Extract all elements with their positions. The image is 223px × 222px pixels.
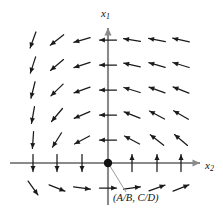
field-arrow — [150, 135, 163, 145]
field-arrow-head — [80, 166, 85, 171]
field-arrow-head — [74, 89, 80, 94]
field-arrow — [149, 87, 165, 93]
field-arrow — [173, 185, 189, 192]
field-arrow-head — [30, 67, 35, 73]
field-arrow — [174, 135, 187, 146]
field-arrow-head — [55, 166, 60, 171]
axes-group — [10, 28, 200, 205]
field-arrow-head — [30, 42, 35, 48]
field-arrow — [74, 62, 90, 68]
field-arrow-head — [100, 138, 105, 143]
field-arrow — [30, 32, 36, 48]
field-arrow-head — [30, 143, 35, 149]
field-arrow-head — [111, 186, 116, 191]
direction-field-figure: x1 x2 (A/B, C/D) — [0, 0, 223, 222]
field-arrow-head — [100, 63, 105, 68]
field-arrow-head — [173, 62, 179, 67]
field-arrow-head — [179, 155, 184, 160]
field-arrow — [124, 112, 140, 119]
field-arrow — [173, 62, 189, 68]
field-arrow — [52, 108, 63, 121]
field-arrow — [53, 133, 62, 147]
field-arrow — [50, 60, 63, 71]
field-arrow-head — [159, 185, 165, 190]
field-arrow-head — [74, 64, 80, 69]
field-arrow-head — [100, 88, 105, 93]
field-arrow-head — [100, 38, 105, 43]
field-arrow — [50, 35, 63, 45]
field-arrow — [30, 82, 35, 99]
field-arrow — [28, 181, 38, 195]
field-arrow-head — [100, 113, 105, 118]
field-arrow — [74, 38, 90, 44]
field-arrow — [174, 111, 189, 120]
field-arrow-head — [149, 87, 155, 92]
axis-label-x2-subscript: 2 — [210, 164, 214, 173]
field-arrow-head — [155, 155, 160, 160]
field-arrow — [51, 84, 63, 96]
field-arrow-head — [30, 118, 35, 124]
field-arrow — [149, 37, 166, 42]
equilibrium-point-label: (A/B, C/D) — [113, 193, 159, 204]
field-arrow — [124, 37, 141, 42]
field-arrow — [49, 185, 65, 192]
field-arrow — [173, 37, 190, 42]
field-arrow-head — [33, 189, 38, 195]
axis-label-x2: x2 — [205, 160, 214, 173]
axis-label-x1-subscript: 1 — [106, 12, 110, 21]
field-arrow — [124, 136, 139, 144]
field-arrow — [30, 132, 35, 149]
axis-label-x1: x1 — [101, 8, 110, 21]
field-arrow — [173, 87, 189, 93]
field-arrow — [74, 87, 90, 93]
field-arrow — [149, 185, 165, 191]
field-arrow — [149, 111, 164, 119]
field-arrow-head — [130, 155, 135, 160]
vector-field-canvas — [0, 0, 223, 222]
field-arrow — [124, 87, 140, 93]
field-arrow-head — [124, 37, 130, 42]
vertical-axis-arrowhead — [104, 28, 111, 36]
field-arrow — [149, 62, 165, 68]
field-arrow — [30, 107, 35, 124]
field-arrow — [74, 186, 91, 191]
field-arrow-head — [124, 87, 130, 92]
field-arrow — [124, 185, 141, 190]
field-arrow-head — [31, 166, 36, 171]
field-arrow — [74, 112, 90, 119]
equilibrium-point-dot — [104, 159, 112, 167]
field-arrow-head — [173, 37, 179, 42]
field-arrow-head — [149, 37, 155, 42]
field-arrow — [124, 62, 141, 67]
field-arrow-head — [124, 62, 130, 67]
field-arrow — [74, 136, 89, 144]
horizontal-axis-arrowhead — [193, 159, 201, 166]
field-arrow — [30, 57, 36, 73]
